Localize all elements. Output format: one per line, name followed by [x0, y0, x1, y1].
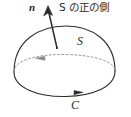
- normal-vector-arrowhead: [44, 6, 53, 17]
- curve-c-arrowhead: [74, 91, 83, 95]
- hidden-equator-dashed-arc: [14, 54, 115, 72]
- normal-vector-base-point: [56, 47, 58, 49]
- dome-surface-outline: [14, 26, 115, 72]
- positive-side-label: S の正の側: [59, 2, 109, 13]
- normal-vector-label: n: [29, 2, 35, 13]
- math-figure-hemisphere: [0, 0, 131, 117]
- surface-label: S: [77, 35, 83, 47]
- boundary-curve-c: [14, 71, 115, 97]
- normal-vector-arrow-shaft: [49, 11, 58, 48]
- curve-label: C: [71, 99, 79, 111]
